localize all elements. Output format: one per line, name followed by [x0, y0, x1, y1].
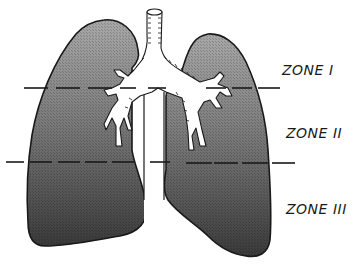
zone-1-label: ZONE I	[282, 62, 334, 78]
left-lung	[27, 20, 146, 246]
zone-3-label: ZONE III	[286, 201, 347, 217]
mediastinum	[144, 90, 164, 265]
zone-2-label: ZONE II	[286, 125, 342, 141]
right-lung	[164, 34, 270, 257]
